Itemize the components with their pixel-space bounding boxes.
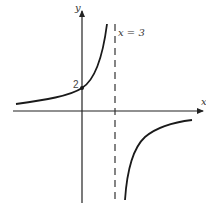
y-intercept-point xyxy=(80,86,84,90)
asymptote-label: x = 3 xyxy=(118,27,145,38)
intercept-label: 2 xyxy=(73,79,79,90)
y-axis-label: y xyxy=(74,2,81,13)
curve-left-branch xyxy=(16,24,107,104)
curve-right-branch xyxy=(125,120,192,200)
x-axis-label: x xyxy=(201,96,206,107)
function-graph: y x x = 3 2 xyxy=(0,0,206,209)
